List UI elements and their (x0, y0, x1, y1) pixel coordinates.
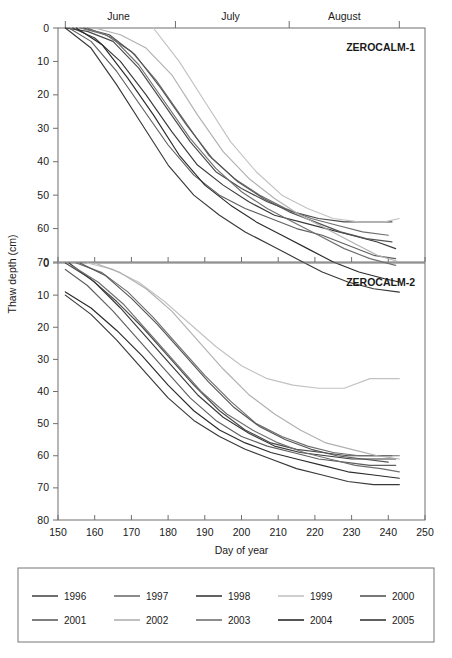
y-tick-label: 10 (37, 289, 49, 301)
figure-canvas: JuneJulyAugust010203040506070ZEROCALM-10… (0, 0, 452, 658)
x-tick-label: 160 (86, 526, 104, 538)
legend-item-2005[interactable]: 2005 (360, 615, 415, 626)
y-tick-label: 70 (37, 481, 49, 493)
series-line-2005 (65, 28, 399, 292)
y-tick-label: 0 (43, 22, 49, 34)
panel-label-zerocalm-1: ZEROCALM-1 (346, 41, 415, 53)
y-tick-label: 80 (37, 514, 49, 526)
x-tick-label: 170 (123, 526, 141, 538)
y-tick-label: 30 (37, 122, 49, 134)
legend-label-2005: 2005 (392, 615, 415, 626)
panel-2: 0102030405060708015016017018019020021022… (37, 257, 434, 538)
legend-label-2004: 2004 (310, 615, 333, 626)
x-tick-label: 240 (380, 526, 398, 538)
x-tick-label: 190 (196, 526, 214, 538)
thaw-depth-figure: JuneJulyAugust010203040506070ZEROCALM-10… (0, 0, 452, 658)
y-tick-label: 30 (37, 353, 49, 365)
legend-label-2001: 2001 (64, 615, 87, 626)
month-label-august: August (328, 10, 361, 22)
legend-item-1998[interactable]: 1998 (196, 591, 251, 602)
month-label-july: July (221, 10, 240, 22)
y-tick-label: 40 (37, 385, 49, 397)
y-tick-label: 50 (37, 189, 49, 201)
legend-item-1999[interactable]: 1999 (278, 591, 333, 602)
legend-item-1996[interactable]: 1996 (32, 591, 87, 602)
series-line-1997 (80, 28, 388, 235)
y-axis-title: Thaw depth (cm) (6, 235, 18, 314)
y-tick-label: 20 (37, 88, 49, 100)
legend-item-2002[interactable]: 2002 (114, 615, 169, 626)
month-axis: JuneJulyAugust (65, 10, 399, 28)
x-tick-label: 230 (343, 526, 361, 538)
series-line-2002 (95, 263, 400, 459)
x-axis-title: Day of year (215, 544, 269, 556)
series-line-1999 (153, 28, 399, 222)
series-line-1998 (69, 263, 396, 459)
x-tick-label: 220 (306, 526, 324, 538)
y-tick-label: 50 (37, 417, 49, 429)
legend-item-2003[interactable]: 2003 (196, 615, 251, 626)
panel-1: 010203040506070ZEROCALM-1 (37, 22, 425, 292)
legend-item-2001[interactable]: 2001 (32, 615, 87, 626)
series-line-1996 (65, 28, 392, 222)
legend-label-1998: 1998 (228, 591, 251, 602)
panel-label-zerocalm-2: ZEROCALM-2 (346, 276, 415, 288)
y-tick-label: 60 (37, 222, 49, 234)
legend-item-2004[interactable]: 2004 (278, 615, 333, 626)
legend-item-2000[interactable]: 2000 (360, 591, 415, 602)
legend-label-1996: 1996 (64, 591, 87, 602)
x-tick-label: 210 (269, 526, 287, 538)
y-tick-label: 40 (37, 155, 49, 167)
legend-label-1999: 1999 (310, 591, 333, 602)
legend-item-1997[interactable]: 1997 (114, 591, 169, 602)
x-tick-label: 150 (49, 526, 67, 538)
panel-frame (58, 263, 425, 520)
series-line-1996 (65, 263, 392, 456)
x-tick-label: 250 (416, 526, 434, 538)
x-tick-label: 200 (233, 526, 251, 538)
series-line-2002 (95, 28, 400, 262)
y-tick-label: 20 (37, 321, 49, 333)
legend: 1996199719981999200020012002200320042005 (18, 568, 434, 642)
legend-label-2000: 2000 (392, 591, 415, 602)
legend-label-2002: 2002 (146, 615, 169, 626)
panel-frame (58, 28, 425, 262)
legend-border (18, 568, 434, 642)
month-label-june: June (107, 10, 130, 22)
series-line-2004 (65, 292, 399, 478)
series-line-2003 (73, 266, 400, 472)
legend-label-2003: 2003 (228, 615, 251, 626)
y-tick-label: 10 (37, 55, 49, 67)
y-tick-label: 60 (37, 449, 49, 461)
y-tick-label: 0 (43, 257, 49, 269)
series-line-2004 (76, 28, 399, 282)
series-line-1998 (73, 28, 396, 249)
x-tick-label: 180 (159, 526, 177, 538)
legend-label-1997: 1997 (146, 591, 169, 602)
